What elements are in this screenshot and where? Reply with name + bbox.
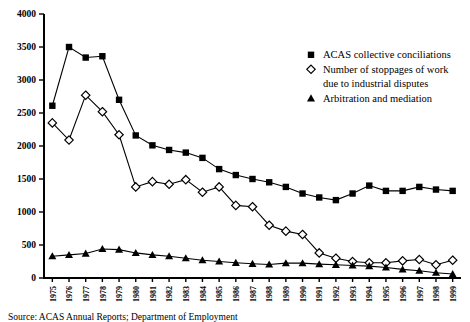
data-point-filled-square [283,184,289,190]
series-2 [48,245,456,277]
data-point-open-diamond [448,256,456,264]
x-axis-tick-label: 1981 [149,286,158,302]
x-axis-tick-label: 1978 [99,286,108,302]
data-point-filled-square [308,52,314,58]
data-point-filled-square [133,132,139,138]
data-point-filled-triangle [307,94,315,101]
data-point-filled-square [399,188,405,194]
data-point-open-diamond [115,131,123,139]
x-axis-tick-label: 1980 [132,286,141,302]
legend-marker-open-diamond [307,65,315,73]
data-point-filled-triangle [98,245,106,252]
data-point-open-diamond [398,257,406,265]
x-axis-tick-label: 1997 [416,286,425,302]
data-point-filled-square [349,190,355,196]
y-axis-tick-label: 1500 [17,174,36,184]
data-point-filled-square [383,188,389,194]
legend-label-cont: due to industrial disputes [323,78,428,89]
data-point-filled-square [366,182,372,188]
y-axis-tick-label: 2500 [17,108,36,118]
x-axis-tick-label: 1979 [115,286,124,302]
data-point-filled-square [333,197,339,203]
data-point-open-diamond [415,255,423,263]
source-caption: Source: ACAS Annual Reports; Department … [8,312,238,322]
y-axis-tick-label: 1000 [17,207,36,217]
x-axis-tick-label: 1984 [199,286,208,302]
data-point-filled-square [216,166,222,172]
y-axis-tick-label: 500 [22,240,37,250]
data-point-open-diamond [432,261,440,269]
data-point-filled-square [49,103,55,109]
x-axis-tick-label: 1990 [299,286,308,302]
x-axis-tick-label: 1991 [315,286,324,302]
x-axis-tick-label: 1999 [449,286,458,302]
line-chart: 0500100015002000250030003500400019751976… [0,0,470,322]
data-point-filled-square [83,54,89,60]
data-point-filled-square [116,97,122,103]
y-axis-tick-label: 0 [31,273,36,283]
data-point-open-diamond [307,65,315,73]
x-axis-tick-label: 1986 [232,286,241,302]
data-point-filled-square [199,155,205,161]
data-point-filled-square [166,147,172,153]
data-point-open-diamond [282,227,290,235]
x-axis-tick-label: 1996 [399,286,408,302]
y-axis-tick-label: 3500 [17,42,36,52]
chart-legend: ACAS collective conciliationsNumber of s… [307,49,451,104]
legend-label: Arbitration and mediation [323,93,433,104]
x-axis-tick-label: 1975 [49,286,58,302]
legend-label: ACAS collective conciliations [323,49,451,60]
legend-label: Number of stoppages of work [323,64,449,75]
data-point-filled-square [66,44,72,50]
x-axis-tick-label: 1995 [382,286,391,302]
y-axis-tick-label: 4000 [17,9,36,19]
legend-marker-filled-square [308,52,314,58]
x-axis-tick-label: 1992 [332,286,341,302]
y-axis-tick-label: 2000 [17,141,36,151]
data-point-filled-square [233,172,239,178]
x-axis-tick-label: 1977 [82,286,91,302]
data-point-open-diamond [165,180,173,188]
x-axis-tick-label: 1976 [65,286,74,302]
data-point-filled-square [99,53,105,59]
x-axis-tick-label: 1994 [365,286,374,302]
data-point-filled-square [433,186,439,192]
data-point-open-diamond [148,177,156,185]
data-point-filled-square [266,179,272,185]
x-axis-tick-label: 1998 [432,286,441,302]
x-axis-tick-label: 1987 [249,286,258,302]
legend-marker-filled-triangle [307,94,315,101]
x-axis-tick-label: 1985 [215,286,224,302]
chart-figure: 0500100015002000250030003500400019751976… [0,0,470,322]
y-axis-tick-label: 3000 [17,75,36,85]
data-point-filled-square [183,149,189,155]
data-point-filled-square [149,142,155,148]
x-axis-tick-label: 1983 [182,286,191,302]
x-axis-tick-label: 1989 [282,286,291,302]
data-point-filled-square [416,184,422,190]
data-point-open-diamond [182,175,190,183]
data-point-open-diamond [132,183,140,191]
data-point-filled-square [299,190,305,196]
data-point-open-diamond [198,188,206,196]
x-axis-tick-label: 1993 [349,286,358,302]
x-axis-tick-label: 1988 [265,286,274,302]
data-point-filled-square [449,188,455,194]
data-point-filled-square [249,176,255,182]
x-axis-tick-label: 1982 [165,286,174,302]
data-point-filled-square [316,194,322,200]
